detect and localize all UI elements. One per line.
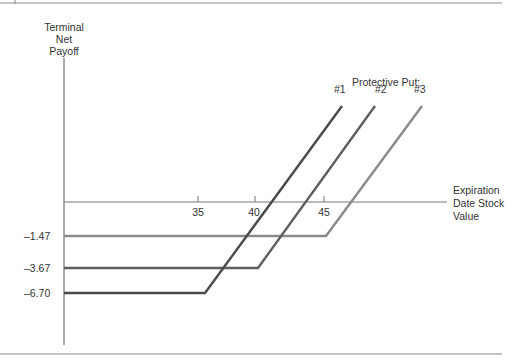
x-tick-label-45: 45 (318, 206, 330, 218)
protective-put-chart: Terminal Net Payoff Protective Put: #1 #… (0, 0, 532, 362)
x-tick-label-40: 40 (248, 206, 260, 218)
series-label-2: #2 (375, 83, 387, 95)
y-axis-label-line1: Terminal (44, 21, 84, 33)
series-label-1: #1 (334, 83, 346, 95)
series-line-1 (64, 106, 342, 293)
x-tick-label-35: 35 (192, 206, 204, 218)
y-tick-label-neg-6-70: –6.70 (24, 287, 50, 299)
y-tick-label-neg-1-47: –1.47 (24, 230, 50, 242)
x-axis-label-line3: Value (453, 210, 479, 222)
series-line-2 (64, 106, 375, 268)
x-axis-label-line2: Date Stock (453, 197, 505, 209)
y-axis-label-line3: Payoff (49, 45, 79, 57)
y-tick-label-neg-3-67: –3.67 (24, 262, 50, 274)
x-axis-label-line1: Expiration (453, 184, 500, 196)
y-axis-label-line2: Net (56, 33, 72, 45)
series-line-3 (64, 106, 422, 236)
series-label-3: #3 (414, 83, 426, 95)
